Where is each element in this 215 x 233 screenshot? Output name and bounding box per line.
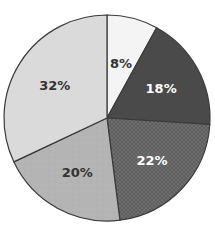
slice-label: 8%: [110, 56, 132, 71]
slice-label: 22%: [136, 153, 167, 168]
slice-label: 20%: [62, 165, 93, 180]
slice-label: 18%: [146, 81, 177, 96]
slice-label: 32%: [39, 78, 70, 93]
pie-chart: 8%18%22%20%32%: [0, 0, 215, 233]
pie-slices: [4, 15, 210, 221]
pie-slice-22-percent: [107, 118, 210, 220]
